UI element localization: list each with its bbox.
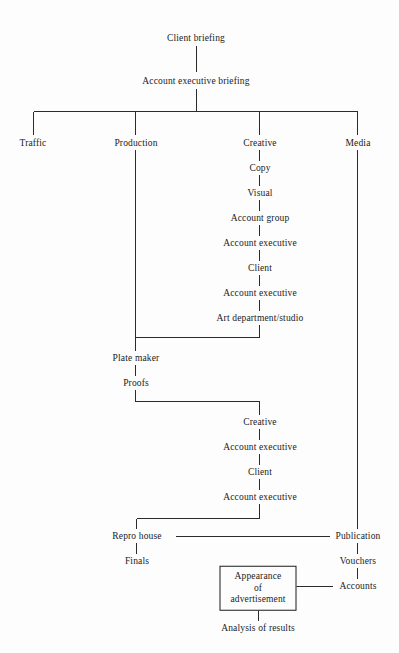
node-account-group[interactable]: Account group [229,213,292,224]
node-art-department-studio[interactable]: Art department/studio [215,313,306,324]
node-media[interactable]: Media [343,138,372,149]
node-publication[interactable]: Publication [334,531,383,542]
node-traffic[interactable]: Traffic [18,138,49,149]
node-account-executive-3[interactable]: Account executive [221,442,299,453]
node-client-briefing[interactable]: Client briefing [165,33,227,44]
node-account-executive-1[interactable]: Account executive [221,238,299,249]
node-client-2[interactable]: Client [246,467,274,478]
node-creative[interactable]: Creative [241,138,278,149]
node-repro-house[interactable]: Repro house [110,531,163,542]
node-vouchers[interactable]: Vouchers [338,556,378,567]
node-account-executive-4[interactable]: Account executive [221,492,299,503]
flowchart-canvas: Client briefing Account executive briefi… [0,0,399,653]
node-account-executive-2[interactable]: Account executive [221,288,299,299]
node-finals[interactable]: Finals [123,556,151,567]
node-production[interactable]: Production [112,138,159,149]
node-accounts[interactable]: Accounts [337,581,378,592]
node-plate-maker[interactable]: Plate maker [111,353,162,364]
node-copy[interactable]: Copy [247,163,272,174]
node-client-1[interactable]: Client [246,263,274,274]
node-account-executive-briefing[interactable]: Account executive briefing [140,76,251,87]
node-analysis-of-results[interactable]: Analysis of results [219,623,297,634]
node-proofs[interactable]: Proofs [121,378,151,389]
node-creative-2[interactable]: Creative [241,417,278,428]
node-appearance-of-advertisement[interactable]: Appearance of advertisement [220,566,297,611]
node-visual[interactable]: Visual [245,188,274,199]
